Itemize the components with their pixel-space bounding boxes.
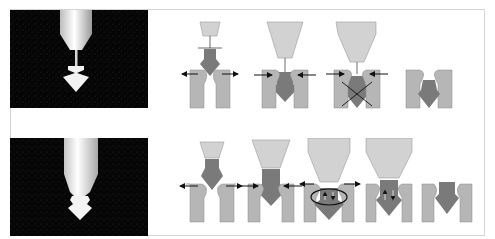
photo-top-row	[10, 10, 148, 108]
bottom-stage-5	[422, 182, 472, 222]
bottom-stage-3	[300, 138, 360, 222]
photo-bottom-row	[10, 138, 148, 236]
photo-bottom-graphic	[10, 138, 148, 236]
top-row-stages	[176, 14, 476, 114]
top-stage-2	[254, 22, 316, 108]
top-stage-4	[406, 70, 452, 108]
bottom-stage-2	[242, 140, 302, 222]
top-stage-1	[182, 22, 238, 108]
bottom-row-stages	[176, 138, 476, 236]
top-stage-3	[326, 22, 388, 108]
bottom-stage-1	[180, 142, 242, 222]
photo-top-graphic	[10, 10, 148, 108]
bottom-stage-4	[366, 138, 412, 222]
